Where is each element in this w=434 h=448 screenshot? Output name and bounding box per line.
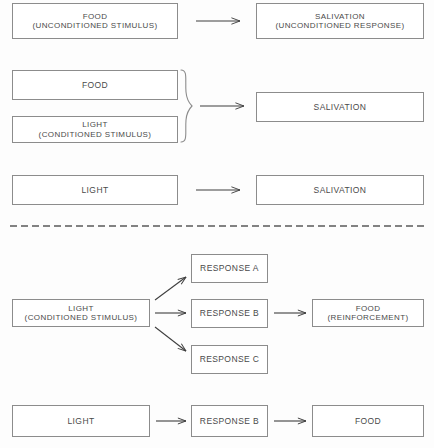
box-line1: LIGHT bbox=[67, 416, 94, 426]
box-line1: LIGHT bbox=[68, 304, 94, 313]
box-line2: (UNCONDITIONED RESPONSE) bbox=[275, 21, 404, 30]
box-line1: FOOD bbox=[355, 416, 381, 426]
box-pairing-salivation: SALIVATION bbox=[256, 92, 424, 122]
box-line2: (CONDITIONED STIMULUS) bbox=[25, 313, 138, 322]
box-line2: (REINFORCEMENT) bbox=[327, 313, 408, 322]
box-line2: (UNCONDITIONED STIMULUS) bbox=[32, 21, 157, 30]
box-line1: RESPONSE B bbox=[200, 308, 259, 318]
box-conditioned-light: LIGHT bbox=[12, 175, 178, 205]
box-line1: SALIVATION bbox=[315, 12, 365, 21]
box-pairing-conditioned-stimulus: LIGHT (CONDITIONED STIMULUS) bbox=[12, 116, 178, 143]
connectors-layer bbox=[0, 0, 434, 448]
box-conditioned-salivation: SALIVATION bbox=[256, 175, 424, 205]
box-line1: RESPONSE A bbox=[200, 263, 259, 273]
box-response-a: RESPONSE A bbox=[191, 254, 268, 283]
arrow-fan-up bbox=[155, 277, 186, 300]
box-bottom-food: FOOD bbox=[312, 405, 424, 437]
box-response-b: RESPONSE B bbox=[191, 299, 268, 328]
box-operant-conditioned-stimulus: LIGHT (CONDITIONED STIMULUS) bbox=[12, 299, 150, 327]
box-line1: LIGHT bbox=[81, 185, 108, 195]
box-bottom-light: LIGHT bbox=[12, 405, 150, 437]
box-unconditioned-response: SALIVATION (UNCONDITIONED RESPONSE) bbox=[256, 3, 424, 39]
box-unconditioned-stimulus: FOOD (UNCONDITIONED STIMULUS) bbox=[12, 3, 178, 39]
diagram-canvas: FOOD (UNCONDITIONED STIMULUS) SALIVATION… bbox=[0, 0, 434, 448]
brace-row2 bbox=[181, 70, 192, 142]
box-line1: SALIVATION bbox=[314, 102, 367, 112]
box-line1: RESPONSE B bbox=[200, 416, 259, 426]
box-response-c: RESPONSE C bbox=[191, 345, 268, 374]
box-line1: SALIVATION bbox=[314, 185, 367, 195]
box-bottom-response-b: RESPONSE B bbox=[191, 405, 268, 437]
arrow-fan-down bbox=[155, 327, 186, 351]
box-pairing-food: FOOD bbox=[12, 70, 178, 100]
box-line2: (CONDITIONED STIMULUS) bbox=[39, 130, 152, 139]
box-line1: FOOD bbox=[82, 80, 108, 90]
box-line1: RESPONSE C bbox=[200, 354, 260, 364]
box-line1: FOOD bbox=[356, 304, 381, 313]
box-line1: LIGHT bbox=[82, 120, 108, 129]
box-food-reinforcement: FOOD (REINFORCEMENT) bbox=[312, 299, 424, 327]
box-line1: FOOD bbox=[83, 12, 108, 21]
